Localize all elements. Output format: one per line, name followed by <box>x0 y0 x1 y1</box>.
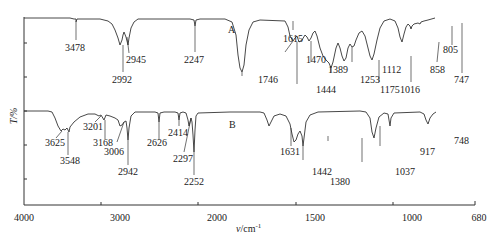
peak-label: 1037 <box>395 166 415 177</box>
x-axis-exp: -1 <box>255 222 261 230</box>
x-tick-label: 680 <box>472 212 487 223</box>
peak-labels-a: 3478 2992 2945 2247 1746 1615 1470 1444 … <box>65 33 469 95</box>
y-axis-title: T/% <box>8 108 19 125</box>
peak-label: 1175 <box>380 84 400 95</box>
peak-label: 1746 <box>258 74 278 85</box>
peak-label: 805 <box>443 44 458 55</box>
peak-label: 2992 <box>112 74 132 85</box>
x-axis-unit: /cm <box>240 223 255 234</box>
x-axis-title: v/cm-1 <box>236 222 262 234</box>
peak-label: 2945 <box>126 54 146 65</box>
peak-label: 747 <box>454 74 469 85</box>
peak-label: 3625 <box>45 137 65 148</box>
peak-label: 1470 <box>306 54 326 65</box>
peak-label: 2247 <box>184 54 204 65</box>
peak-label: 2252 <box>184 176 204 187</box>
x-tick-label: 2000 <box>207 212 227 223</box>
peak-label: 1380 <box>330 176 350 187</box>
peak-label: 917 <box>420 146 435 157</box>
peak-label: 1442 <box>312 166 332 177</box>
svg-text:v/cm-1: v/cm-1 <box>236 222 262 234</box>
peak-label: 3201 <box>83 121 103 132</box>
peak-label: 1389 <box>328 64 348 75</box>
peak-label: 858 <box>430 64 445 75</box>
peak-label: 1615 <box>283 33 303 44</box>
x-tick-labels: 4000 3000 2000 1500 1000 680 <box>14 212 487 223</box>
peak-label: 2626 <box>147 137 167 148</box>
peak-label: 2942 <box>118 166 138 177</box>
peak-label: 1631 <box>280 146 300 157</box>
x-tick-label: 1000 <box>402 212 422 223</box>
x-tick-label: 1500 <box>305 212 325 223</box>
peak-label: 1444 <box>316 84 336 95</box>
peak-label: 3478 <box>65 42 85 53</box>
peak-labels-b: 3625 3548 3201 3168 3006 2942 2626 2414 … <box>45 121 469 187</box>
series-a-label: A <box>228 24 236 35</box>
peak-label: 1016 <box>400 84 420 95</box>
peak-label: 3006 <box>104 146 124 157</box>
peak-label: 748 <box>454 135 469 146</box>
peak-label: 2414 <box>168 127 188 138</box>
peak-label: 2297 <box>173 153 193 164</box>
series-b-label: B <box>229 119 236 130</box>
peak-label: 3548 <box>60 155 80 166</box>
peak-label: 1253 <box>360 74 380 85</box>
ir-spectrum-chart: 4000 3000 2000 1500 1000 680 T/% v/cm-1 … <box>0 0 493 242</box>
peak-label: 1112 <box>382 64 401 75</box>
x-tick-label: 3000 <box>110 212 130 223</box>
x-tick-label: 4000 <box>14 212 34 223</box>
